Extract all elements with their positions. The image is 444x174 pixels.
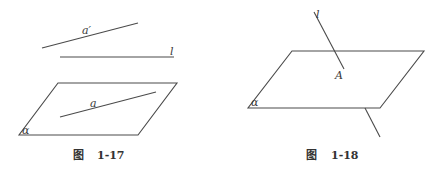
figure-1-17: a′ l a α 图 1-17	[19, 23, 177, 162]
label-plane-alpha: α	[22, 124, 30, 137]
figure-1-18: l A α 图 1-18	[248, 8, 424, 162]
line-a	[60, 92, 156, 117]
caption-prefix: 图	[306, 149, 317, 162]
label-l: l	[316, 8, 320, 21]
line-l-lower	[365, 108, 380, 137]
label-plane-alpha: α	[251, 96, 259, 109]
label-a-prime: a′	[82, 24, 92, 37]
label-l: l	[170, 45, 174, 58]
caption-prefix: 图	[73, 149, 84, 162]
plane-alpha	[19, 83, 177, 135]
diagram-canvas: a′ l a α 图 1-17 l A α 图 1-18	[0, 0, 444, 174]
label-point-a: A	[334, 69, 343, 82]
caption-number: 1-17	[97, 149, 125, 162]
caption-number: 1-18	[331, 149, 359, 162]
label-a: a	[90, 97, 97, 110]
